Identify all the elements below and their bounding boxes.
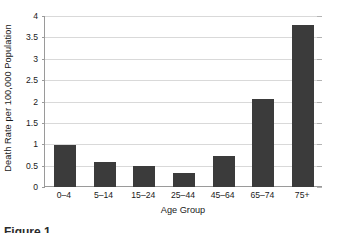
y-axis-tick-mark <box>42 187 45 188</box>
figure-caption: Figure 1. <box>4 226 334 233</box>
x-axis-tick-label: 25–44 <box>171 190 195 200</box>
bar <box>173 173 195 187</box>
y-axis-tick-label: 3 <box>33 54 38 64</box>
x-axis-tick-labels: 0–45–1415–2425–4445–6465–7475+ <box>44 190 322 204</box>
y-axis-title: Death Rate per 100,000 Population <box>0 0 16 195</box>
x-axis-tick-label: 65–74 <box>250 190 274 200</box>
x-axis-title: Age Group <box>44 205 322 215</box>
y-axis-title-text: Death Rate per 100,000 Population <box>3 24 13 171</box>
figure-caption-text: Figure 1. <box>4 226 334 233</box>
bar <box>54 145 76 187</box>
x-axis-tick-label: 15–24 <box>131 190 155 200</box>
y-axis-tick-label: 0 <box>33 182 38 192</box>
x-axis-tick-label: 45–64 <box>211 190 235 200</box>
bar-chart-figure: Death Rate per 100,000 Population 00.511… <box>0 0 338 233</box>
y-axis-tick-label: 0.5 <box>26 161 38 171</box>
y-axis-tick-label: 1.5 <box>26 118 38 128</box>
y-axis-tick-label: 3.5 <box>26 32 38 42</box>
bar <box>94 162 116 187</box>
bar <box>292 25 314 187</box>
y-axis-tick-labels: 00.511.522.533.54 <box>16 16 42 187</box>
bar <box>133 166 155 187</box>
bar <box>213 156 235 187</box>
y-axis-tick-label: 2.5 <box>26 75 38 85</box>
y-axis-tick-label: 2 <box>33 97 38 107</box>
y-axis-right-tick-mark <box>317 187 322 188</box>
y-axis-tick-label: 4 <box>33 11 38 21</box>
plot-area <box>44 16 322 187</box>
bar-series <box>45 16 322 187</box>
bar <box>252 99 274 187</box>
y-axis-tick-label: 1 <box>33 139 38 149</box>
x-axis-tick-label: 0–4 <box>57 190 71 200</box>
x-axis-tick-label: 75+ <box>295 190 310 200</box>
x-axis-tick-label: 5–14 <box>94 190 113 200</box>
